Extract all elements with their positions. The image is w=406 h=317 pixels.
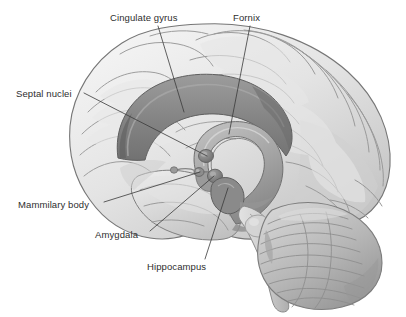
label-septal-nuclei: Septal nuclei xyxy=(16,88,72,99)
label-fornix: Fornix xyxy=(233,12,260,23)
septal-nuclei-mass xyxy=(199,150,214,163)
label-mammilary-body: Mammilary body xyxy=(18,199,89,210)
cerebellum xyxy=(258,203,382,310)
label-hippocampus: Hippocampus xyxy=(147,261,206,272)
brain-anatomy-figure: Cingulate gyrus Fornix Septal nuclei Mam… xyxy=(0,0,406,317)
label-cingulate-gyrus: Cingulate gyrus xyxy=(110,12,178,23)
label-amygdala: Amygdala xyxy=(95,229,138,240)
